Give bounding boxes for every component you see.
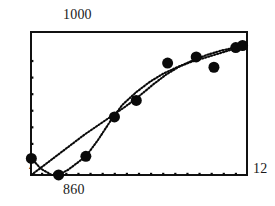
plot-area (30, 31, 248, 176)
data-point (162, 58, 173, 69)
y-axis-ticks (31, 60, 33, 162)
data-point (208, 62, 219, 73)
data-point (53, 169, 64, 180)
data-point (131, 95, 142, 106)
x-axis-ticks (41, 173, 237, 175)
chart-canvas (30, 31, 248, 176)
data-points (26, 40, 248, 180)
y-axis-max-label: 1000 (63, 8, 92, 22)
data-point (237, 40, 248, 51)
x-axis-max-label: 12 (253, 162, 267, 176)
x-axis-min-label: 860 (63, 183, 85, 197)
chart-container: 1000 4 860 12 (0, 0, 275, 206)
data-point (109, 111, 120, 122)
data-point (191, 51, 202, 62)
data-point (80, 151, 91, 162)
data-point (26, 153, 37, 164)
